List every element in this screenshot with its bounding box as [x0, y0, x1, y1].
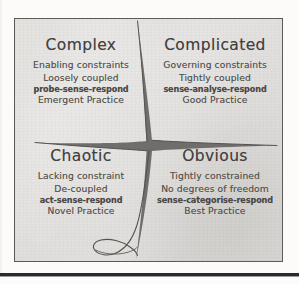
quadrant-obvious-line-4: Best Practice — [151, 205, 279, 217]
quadrant-chaotic: Chaotic Lacking constraint De-coupled ac… — [17, 148, 145, 218]
quadrant-complex-line-3: probe-sense-respond — [17, 84, 145, 95]
quadrant-chaotic-title: Chaotic — [17, 148, 145, 164]
quadrant-complicated-line-2: Tightly coupled — [151, 72, 279, 84]
quadrant-complex-line-2: Loosely coupled — [17, 72, 145, 84]
page-left-edge — [0, 0, 2, 273]
quadrant-complex-title: Complex — [17, 37, 145, 53]
quadrant-complicated-title: Complicated — [151, 37, 279, 53]
quadrant-complicated-line-1: Governing constraints — [151, 59, 279, 71]
quadrant-complex: Complex Enabling constraints Loosely cou… — [17, 37, 145, 107]
quadrant-chaotic-line-3: act-sense-respond — [17, 195, 145, 206]
quadrant-obvious-line-3: sense-categorise-respond — [151, 195, 279, 206]
quadrant-complicated: Complicated Governing constraints Tightl… — [151, 37, 279, 107]
quadrant-obvious: Obvious Tightly constrained No degrees o… — [151, 148, 279, 218]
page: Complex Enabling constraints Loosely cou… — [0, 0, 299, 284]
quadrant-complex-line-1: Enabling constraints — [17, 59, 145, 71]
cynefin-diagram-panel: Complex Enabling constraints Loosely cou… — [14, 18, 283, 262]
quadrant-chaotic-line-2: De-coupled — [17, 183, 145, 195]
quadrant-complicated-line-4: Good Practice — [151, 94, 279, 106]
quadrant-obvious-line-1: Tightly constrained — [151, 170, 279, 182]
page-bottom-rule-shadow — [0, 276, 299, 277]
quadrant-complex-line-4: Emergent Practice — [17, 94, 145, 106]
quadrant-obvious-title: Obvious — [151, 148, 279, 164]
quadrant-complicated-line-3: sense-analyse-respond — [151, 84, 279, 95]
quadrant-obvious-line-2: No degrees of freedom — [151, 183, 279, 195]
quadrant-chaotic-line-1: Lacking constraint — [17, 170, 145, 182]
quadrant-chaotic-line-4: Novel Practice — [17, 205, 145, 217]
